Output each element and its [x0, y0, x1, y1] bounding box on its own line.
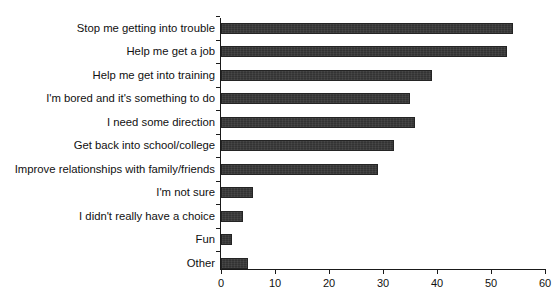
y-axis-tick — [216, 110, 220, 111]
chart-title — [0, 0, 554, 3]
bar — [221, 140, 394, 151]
x-axis-tick-label: 10 — [269, 277, 281, 289]
x-axis-tick-label: 30 — [377, 277, 389, 289]
x-axis-tick-label: 50 — [485, 277, 497, 289]
x-axis-tick — [275, 270, 276, 274]
y-axis-tick — [216, 181, 220, 182]
y-axis-tick — [216, 87, 220, 88]
x-axis-tick-label: 20 — [323, 277, 335, 289]
y-axis-tick — [216, 16, 220, 17]
bar — [221, 234, 232, 245]
x-axis-tick-label: 40 — [431, 277, 443, 289]
x-axis-tick — [329, 270, 330, 274]
x-axis-tick-label: 60 — [539, 277, 551, 289]
bar — [221, 93, 410, 104]
x-axis-tick — [437, 270, 438, 274]
x-axis-tick — [491, 270, 492, 274]
x-axis-tick — [383, 270, 384, 274]
bar — [221, 187, 253, 198]
x-axis-tick-label: 0 — [218, 277, 224, 289]
y-axis-tick — [216, 204, 220, 205]
category-label: I'm not sure — [0, 186, 215, 198]
x-axis-tick — [545, 270, 546, 274]
x-axis-tick — [221, 270, 222, 274]
y-axis-tick — [216, 157, 220, 158]
bar — [221, 46, 507, 57]
y-axis-tick — [216, 228, 220, 229]
bar — [221, 117, 415, 128]
y-axis-tick — [216, 134, 220, 135]
category-label: I need some direction — [0, 116, 215, 128]
category-label: Help me get a job — [0, 45, 215, 57]
y-axis-tick — [216, 63, 220, 64]
category-label: Improve relationships with family/friend… — [0, 163, 215, 175]
category-label: Other — [0, 257, 215, 269]
category-label: Get back into school/college — [0, 139, 215, 151]
category-label: I didn't really have a choice — [0, 210, 215, 222]
bar — [221, 23, 513, 34]
y-axis-tick — [216, 251, 220, 252]
bar — [221, 70, 432, 81]
bar-chart: Stop me getting into troubleHelp me get … — [0, 0, 554, 303]
category-label: Stop me getting into trouble — [0, 22, 215, 34]
category-label: I'm bored and it's something to do — [0, 92, 215, 104]
category-label: Fun — [0, 233, 215, 245]
category-label: Help me get into training — [0, 69, 215, 81]
bar — [221, 211, 243, 222]
y-axis-tick — [216, 40, 220, 41]
bar — [221, 258, 248, 269]
bar — [221, 164, 378, 175]
